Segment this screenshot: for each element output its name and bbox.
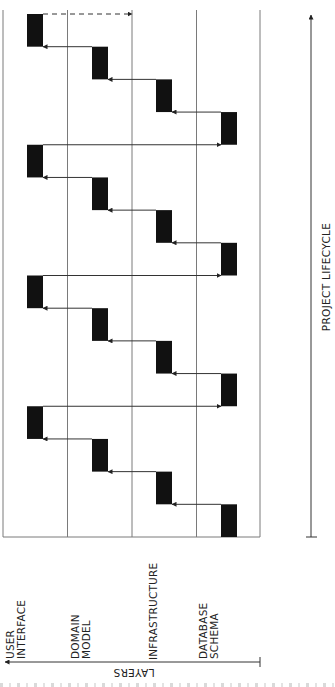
work-block-db	[221, 374, 237, 407]
work-block-inf	[156, 341, 172, 374]
work-block-dm	[92, 47, 108, 80]
layer-label-infrastructure: INFRASTRUCTURE	[148, 563, 159, 660]
work-block-ui	[27, 145, 43, 178]
work-block-db	[221, 504, 237, 537]
layer-label-line: INFRASTRUCTURE	[148, 563, 159, 660]
layer-label-domain-model: DOMAIN MODEL	[70, 614, 92, 659]
work-block-dm	[92, 177, 108, 210]
layer-label-user-interface: USER INTERFACE	[5, 600, 27, 659]
work-block-db	[221, 243, 237, 276]
lifecycle-axis-label: PROJECT LIFECYCLE	[320, 219, 332, 335]
work-block-dm	[92, 308, 108, 341]
work-block-inf	[156, 79, 172, 112]
cropped-caption-strip	[0, 683, 335, 687]
layer-lifecycle-diagram	[0, 0, 335, 687]
layer-label-line: MODEL	[81, 614, 92, 659]
diagram-canvas: USER INTERFACE DOMAIN MODEL INFRASTRUCTU…	[0, 0, 335, 687]
layers-axis-label: LAYERS	[110, 667, 158, 679]
work-block-ui	[27, 406, 43, 439]
work-block-db	[221, 112, 237, 145]
layer-label-line: SCHEMA	[209, 603, 220, 659]
work-block-inf	[156, 210, 172, 243]
layer-label-line: INTERFACE	[16, 600, 27, 659]
layer-label-database-schema: DATABASE SCHEMA	[198, 603, 220, 659]
work-block-ui	[27, 14, 43, 47]
work-block-inf	[156, 472, 172, 505]
work-block-ui	[27, 276, 43, 309]
work-block-dm	[92, 439, 108, 472]
